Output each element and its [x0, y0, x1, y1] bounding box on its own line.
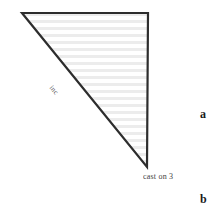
triangle-diagram — [0, 0, 218, 212]
panel-letter-b: b — [200, 192, 207, 207]
panel-letter-a: a — [200, 107, 206, 122]
figure-page: inc cast on 3 a b — [0, 0, 218, 212]
cast-on-label: cast on 3 — [143, 172, 173, 181]
triangle-fill — [0, 0, 218, 212]
